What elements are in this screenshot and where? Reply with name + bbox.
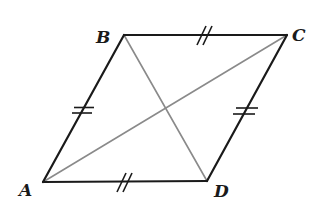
side-da bbox=[43, 181, 207, 182]
vertex-label-c: C bbox=[292, 25, 306, 45]
rhombus-diagram: A B C D bbox=[0, 0, 322, 222]
vertex-label-d: D bbox=[213, 181, 229, 201]
side-ab bbox=[43, 35, 124, 182]
vertex-label-a: A bbox=[17, 180, 32, 200]
vertex-label-b: B bbox=[95, 27, 110, 47]
diagonal-bd bbox=[124, 35, 207, 181]
